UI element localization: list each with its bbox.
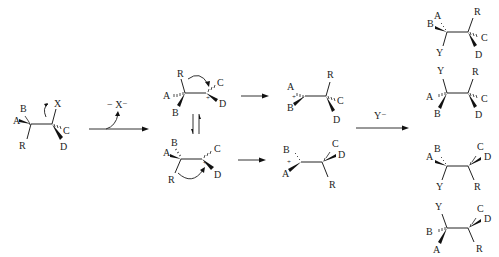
atom-label: Y (436, 47, 443, 58)
atom-label: D (333, 114, 340, 125)
atom-label: A (426, 91, 434, 102)
charge-label: + (292, 93, 296, 101)
atom-label: A (287, 81, 295, 92)
atom-label: R (168, 174, 175, 185)
atom-label: D (475, 109, 482, 120)
atom-label: C (63, 125, 70, 136)
bridged-ion-bottom: B + A C D R (282, 138, 345, 190)
atom-label: R (474, 6, 481, 17)
atom-label: C (217, 77, 224, 88)
atom-label: Y (437, 65, 444, 76)
atom-label: B (427, 18, 434, 29)
product-4: Y B A C D R (426, 201, 491, 255)
atom-label: A (434, 10, 442, 21)
charge-label: + (203, 159, 207, 167)
atom-label: C (332, 138, 339, 149)
reaction-mechanism-diagram: A B R X C D − X⁻ R A B + C D (0, 0, 499, 257)
product-1: A B Y R C D (427, 6, 488, 60)
substrate-molecule: A B R X C D (13, 98, 70, 152)
atom-label: Y (436, 181, 443, 192)
carbocation-top: R A B + C D (163, 68, 226, 118)
atom-label: R (474, 181, 481, 192)
atom-label: D (484, 151, 491, 162)
atom-label: B (283, 144, 290, 155)
product-3: B A Y C D R (426, 141, 491, 192)
atom-label: B (171, 137, 178, 148)
atom-label: D (475, 49, 482, 60)
equilibrium-arrows (191, 114, 201, 134)
leaving-group-label: − X⁻ (107, 99, 128, 110)
ionization-arrow: − X⁻ (89, 99, 149, 132)
nucleophile-label: Y⁻ (374, 110, 387, 121)
atom-label: D (338, 149, 345, 160)
atom-label: R (476, 243, 483, 254)
atom-label: C (337, 95, 344, 106)
atom-label: B (287, 102, 294, 113)
atom-label: B (426, 226, 433, 237)
atom-label: A (426, 151, 434, 162)
atom-label: X (54, 98, 62, 109)
atom-label: A (163, 90, 171, 101)
atom-label: B (20, 103, 27, 114)
charge-label: + (287, 158, 291, 166)
atom-label: R (472, 66, 479, 77)
atom-label: C (214, 143, 221, 154)
nucleophile-arrow: Y⁻ (356, 110, 409, 131)
atom-label: A (13, 115, 21, 126)
atom-label: D (484, 213, 491, 224)
atom-label: A (163, 147, 171, 158)
atom-label: R (327, 69, 334, 80)
reaction-arrow-top (241, 94, 269, 99)
atom-label: D (219, 98, 226, 109)
atom-label: B (434, 108, 441, 119)
atom-label: D (60, 141, 67, 152)
carbocation-bottom: A B R + C D (163, 137, 221, 185)
atom-label: A (433, 244, 441, 255)
atom-label: B (172, 107, 179, 118)
atom-label: A (282, 168, 290, 179)
atom-label: C (481, 32, 488, 43)
atom-label: R (19, 140, 26, 151)
atom-label: B (434, 143, 441, 154)
atom-label: R (329, 179, 336, 190)
product-2: Y A B R C D (426, 65, 488, 120)
atom-label: D (214, 169, 221, 180)
charge-label: + (206, 94, 210, 102)
reaction-arrow-bottom (238, 158, 266, 163)
atom-label: R (177, 68, 184, 79)
atom-label: C (481, 93, 488, 104)
bridged-ion-top: A + B R C D (287, 69, 344, 125)
atom-label: C (477, 141, 484, 152)
atom-label: C (477, 203, 484, 214)
atom-label: Y (435, 201, 442, 212)
